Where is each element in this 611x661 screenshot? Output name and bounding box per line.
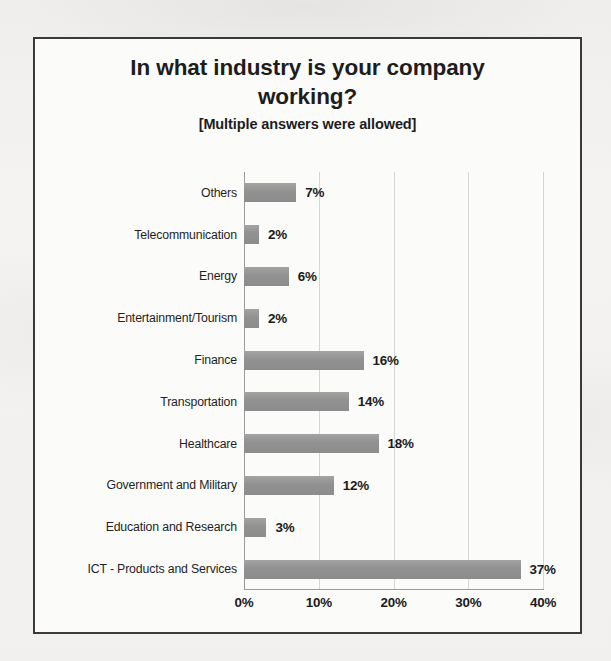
chart-title-block: In what industry is your company working… (35, 53, 580, 132)
page-title-line-2: working? (35, 82, 580, 111)
bar-value-label: 12% (343, 478, 369, 493)
bar (244, 434, 379, 453)
bar-row: Energy6% (244, 256, 543, 298)
bar (244, 183, 296, 202)
chart-figure: In what industry is your company working… (33, 37, 582, 634)
x-tick-label: 20% (380, 595, 406, 610)
bar-value-label: 18% (388, 436, 414, 451)
category-label: Telecommunication (134, 228, 237, 242)
bar-row: Healthcare18% (244, 423, 543, 465)
bar-value-label: 37% (530, 562, 556, 577)
bar (244, 309, 259, 328)
bar (244, 518, 266, 537)
category-label: Entertainment/Tourism (117, 311, 237, 325)
category-label: Finance (194, 353, 237, 367)
x-tick-label: 40% (530, 595, 556, 610)
bar-row: Telecommunication2% (244, 214, 543, 256)
category-label: Healthcare (179, 437, 237, 451)
chart-subtitle: [Multiple answers were allowed] (35, 116, 580, 132)
plot-area: Others7%Telecommunication2%Energy6%Enter… (244, 172, 543, 590)
bar-value-label: 14% (358, 394, 384, 409)
bar-row: Government and Military12% (244, 465, 543, 507)
category-label: Others (201, 186, 237, 200)
bar (244, 560, 521, 579)
gridline-40% (543, 172, 544, 590)
category-label: Energy (199, 269, 237, 283)
x-tick-label: 10% (306, 595, 332, 610)
category-label: Government and Military (106, 478, 237, 492)
bar-value-label: 2% (268, 227, 287, 242)
bar (244, 225, 259, 244)
x-axis-tick-labels: 0%10%20%30%40% (244, 595, 543, 619)
bar (244, 392, 349, 411)
bar (244, 476, 334, 495)
category-label: ICT - Products and Services (88, 562, 238, 576)
bar-row: Education and Research3% (244, 506, 543, 548)
bar-value-label: 7% (305, 185, 324, 200)
bar-value-label: 2% (268, 311, 287, 326)
bar-row: Others7% (244, 172, 543, 214)
bar-row: Entertainment/Tourism2% (244, 297, 543, 339)
bar-row: ICT - Products and Services37% (244, 548, 543, 590)
bar-row: Transportation14% (244, 381, 543, 423)
page-title-line-1: In what industry is your company (35, 53, 580, 82)
category-label: Transportation (160, 395, 237, 409)
bar-value-label: 6% (298, 269, 317, 284)
bar (244, 267, 289, 286)
bar (244, 351, 364, 370)
x-tick-label: 0% (235, 595, 254, 610)
bar-row: Finance16% (244, 339, 543, 381)
x-tick-label: 30% (455, 595, 481, 610)
bar-value-label: 3% (275, 520, 294, 535)
bar-series: Others7%Telecommunication2%Energy6%Enter… (244, 172, 543, 590)
category-label: Education and Research (106, 520, 237, 534)
bar-value-label: 16% (373, 353, 399, 368)
